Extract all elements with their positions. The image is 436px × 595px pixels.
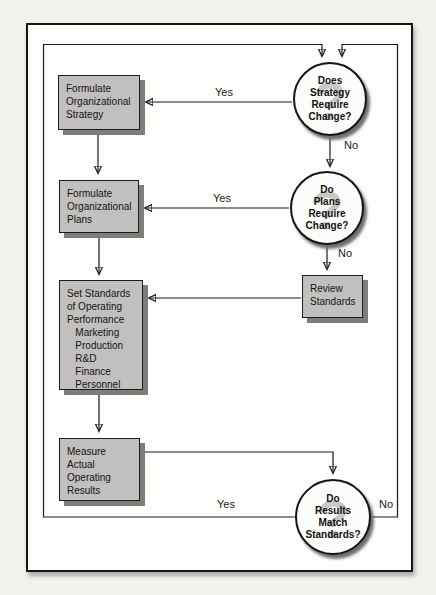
connector-measure-to-results [140, 452, 333, 473]
process-box-set-standards: Set Standards of Operating Performance M… [59, 280, 143, 390]
process-box-measure-results: Measure Actual Operating Results [59, 438, 140, 501]
label-strategy-no: No [339, 139, 363, 152]
label-results-yes: Yes [209, 498, 243, 511]
decision-plans-change-text: Do Plans Require Change? [306, 184, 349, 232]
label-strategy-yes: Yes [207, 86, 241, 99]
process-box-formulate-strategy-text: Formulate Organizational Strategy [59, 76, 139, 121]
process-box-formulate-strategy: Formulate Organizational Strategy [58, 75, 140, 130]
process-box-review-standards-text: Review Standards [303, 276, 362, 308]
decision-results-match: ? Do Results Match Standards? [295, 479, 371, 555]
process-box-formulate-plans-text: Formulate Organizational Plans [60, 181, 138, 226]
process-box-review-standards: Review Standards [302, 275, 363, 318]
decision-plans-change: ? Do Plans Require Change? [290, 171, 364, 245]
decision-strategy-change-text: Does Strategy Require Change? [309, 75, 352, 123]
label-plans-yes: Yes [205, 192, 239, 205]
page: Formulate Organizational Strategy Formul… [0, 0, 436, 595]
process-box-formulate-plans: Formulate Organizational Plans [59, 180, 139, 233]
process-box-set-standards-text: Set Standards of Operating Performance M… [60, 281, 142, 391]
process-box-measure-results-text: Measure Actual Operating Results [60, 439, 139, 497]
label-results-no: No [375, 498, 397, 511]
decision-results-match-text: Do Results Match Standards? [305, 493, 360, 541]
label-plans-no: No [333, 247, 357, 260]
decision-strategy-change: ? Does Strategy Require Change? [293, 62, 367, 136]
